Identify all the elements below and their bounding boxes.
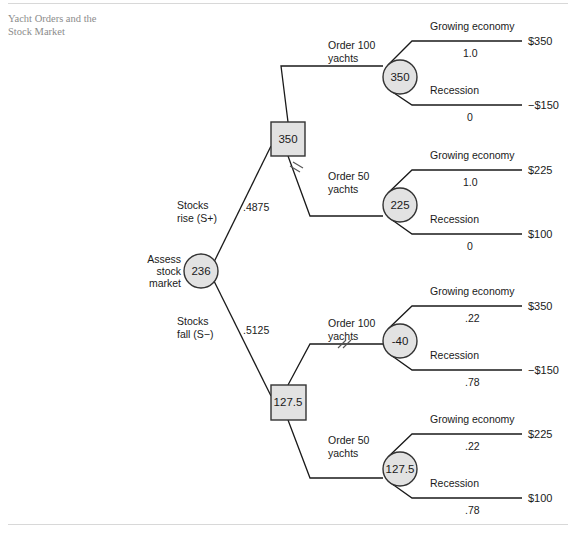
- outcome-payoff-dn100-growing: $350: [528, 300, 552, 312]
- node-decision-lower[interactable]: 127.5: [271, 385, 306, 420]
- branch-label-order-50-lower-line-2: yachts: [328, 447, 358, 459]
- branch-label-order-100-upper-line-1: Order 100: [328, 39, 375, 51]
- outcome-prob-up100-growing: 1.0: [463, 47, 478, 59]
- root-label-line-3: market: [149, 277, 181, 289]
- outcome-payoff-dn100-recession: −$150: [528, 364, 559, 376]
- branch-label-order-50-upper-line-1: Order 50: [328, 170, 370, 182]
- edge-order-100-upper: [281, 66, 383, 122]
- figure-title: Yacht Orders and the Stock Market: [8, 12, 158, 38]
- node-chance-lower-order100[interactable]: -40: [383, 324, 417, 358]
- node-group: 236 350 127.5 350 225: [184, 60, 417, 486]
- outcome-state-dn100-growing: Growing economy: [430, 285, 515, 297]
- outcome-state-up50-recession: Recession: [430, 213, 479, 225]
- prune-mark-order-50-upper: [290, 162, 303, 172]
- outcome-payoff-up100-growing: $350: [528, 35, 552, 47]
- bottom-divider: [8, 524, 568, 525]
- outcome-payoff-up50-recession: $100: [528, 228, 552, 240]
- branch-prob-stocks-fall: .5125: [243, 324, 269, 336]
- node-chance-lower-order100-value: -40: [392, 335, 409, 347]
- outcome-payoff-up50-growing: $225: [528, 164, 552, 176]
- node-root-value: 236: [191, 265, 210, 277]
- decision-tree-figure: Yacht Orders and the Stock Market: [0, 0, 576, 534]
- node-chance-upper-order50-value: 225: [390, 199, 409, 211]
- node-decision-lower-value: 127.5: [274, 396, 303, 408]
- branch-prob-stocks-rise: .4875: [243, 201, 269, 213]
- branch-label-stocks-rise-line-2: rise (S+): [177, 212, 217, 224]
- outcome-prob-up50-growing: 1.0: [463, 176, 478, 188]
- top-divider: [8, 3, 568, 4]
- branch-label-stocks-fall-line-2: fall (S−): [177, 328, 213, 340]
- outcome-payoff-dn50-growing: $225: [528, 428, 552, 440]
- branch-label-order-100-upper-line-2: yachts: [328, 52, 358, 64]
- root-label-line-1: Assess: [147, 253, 181, 265]
- outcome-state-dn100-recession: Recession: [430, 349, 479, 361]
- branch-label-order-50-lower-line-1: Order 50: [328, 434, 370, 446]
- outcome-state-up100-growing: Growing economy: [430, 20, 515, 32]
- outcome-payoff-up100-recession: −$150: [528, 99, 559, 111]
- root-label-line-2: stock: [156, 265, 181, 277]
- decision-tree-canvas: 236 350 127.5 350 225: [0, 0, 576, 534]
- outcome-prob-dn100-recession: .78: [465, 376, 480, 388]
- node-root[interactable]: 236: [184, 254, 218, 288]
- node-decision-upper-value: 350: [278, 133, 297, 145]
- outcome-prob-up100-recession: 0: [467, 111, 473, 123]
- branch-label-stocks-fall-line-1: Stocks: [177, 315, 209, 327]
- branch-label-order-100-lower-line-1: Order 100: [328, 317, 375, 329]
- outcome-state-up100-recession: Recession: [430, 84, 479, 96]
- root-node-label: Assess stock market: [147, 253, 182, 289]
- edge-order-100-lower: [288, 344, 383, 385]
- node-chance-lower-order50[interactable]: 127.5: [383, 452, 417, 486]
- branch-label-stocks-rise-line-1: Stocks: [177, 199, 209, 211]
- outcome-payoff-dn50-recession: $100: [528, 492, 552, 504]
- outcome-state-dn50-recession: Recession: [430, 477, 479, 489]
- branch-label-order-100-lower-line-2: yachts: [328, 330, 358, 342]
- outcome-label-group: Growing economy 1.0 $350 Recession 0 −$1…: [430, 20, 559, 516]
- node-chance-upper-order100-value: 350: [390, 71, 409, 83]
- edge-group: [214, 41, 522, 498]
- branch-label-order-50-upper-line-2: yachts: [328, 183, 358, 195]
- node-chance-upper-order50[interactable]: 225: [383, 188, 417, 222]
- node-chance-lower-order50-value: 127.5: [386, 463, 415, 475]
- outcome-prob-dn100-growing: .22: [465, 312, 480, 324]
- node-chance-upper-order100[interactable]: 350: [383, 60, 417, 94]
- outcome-prob-dn50-growing: .22: [465, 440, 480, 452]
- node-decision-upper[interactable]: 350: [271, 122, 305, 156]
- edge-stocks-fall: [214, 281, 271, 396]
- outcome-prob-up50-recession: 0: [467, 240, 473, 252]
- outcome-state-up50-growing: Growing economy: [430, 149, 515, 161]
- outcome-prob-dn50-recession: .78: [465, 504, 480, 516]
- outcome-state-dn50-growing: Growing economy: [430, 413, 515, 425]
